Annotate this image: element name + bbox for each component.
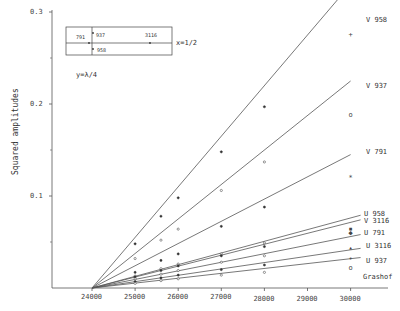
svg-text:o: o	[349, 264, 353, 272]
inset-label-937: 937	[96, 32, 105, 38]
chart: Squared amplitudes 0.10.20.3 24000250002…	[0, 0, 400, 311]
series-label: V 791	[366, 148, 387, 156]
y-axis-label: Squared amplitudes	[11, 88, 20, 175]
inset-label-3116: 3116	[145, 32, 157, 38]
series-label: V 937	[366, 82, 387, 90]
x-tick-label: 28000	[253, 295, 274, 303]
svg-text:+: +	[349, 31, 353, 39]
x-tick-label: 24000	[81, 293, 102, 301]
y-tick-label: 0.1	[30, 192, 43, 200]
svg-text:◆: ◆	[349, 229, 354, 237]
svg-text:*: *	[349, 174, 353, 182]
inset-y-label: y=λ/4	[76, 71, 97, 79]
series-label: U 791	[364, 229, 385, 237]
inset-label-958: 958	[97, 47, 106, 53]
x-tick-label: 26000	[167, 293, 188, 301]
series-v-791: *V 791	[92, 148, 387, 288]
inset-diagram: 791 937 3116 958 x=1/2 y=λ/4	[66, 27, 197, 79]
svg-text:o: o	[349, 111, 353, 119]
series-label: U 3116	[366, 242, 391, 250]
inset-x-label: x=1/2	[176, 39, 197, 47]
series-label: V 958	[366, 16, 387, 24]
inset-label-791: 791	[76, 34, 85, 40]
series-label: U 937	[366, 257, 387, 265]
y-tick-label: 0.2	[30, 100, 43, 108]
x-tick-label: 27000	[210, 293, 231, 301]
x-tick-label: 29000	[297, 295, 318, 303]
x-tick-label: 25000	[124, 293, 145, 301]
series-label: V 3116	[364, 217, 389, 225]
x-axis: 24000250002600027000280002900030000	[52, 288, 388, 303]
y-tick-label: 0.3	[30, 8, 43, 16]
grashof-label: Grashof	[363, 273, 393, 281]
series-v-937: oV 937	[92, 81, 387, 288]
y-axis: Squared amplitudes 0.10.20.3	[11, 8, 52, 288]
x-tick-label: 30000	[340, 295, 361, 303]
